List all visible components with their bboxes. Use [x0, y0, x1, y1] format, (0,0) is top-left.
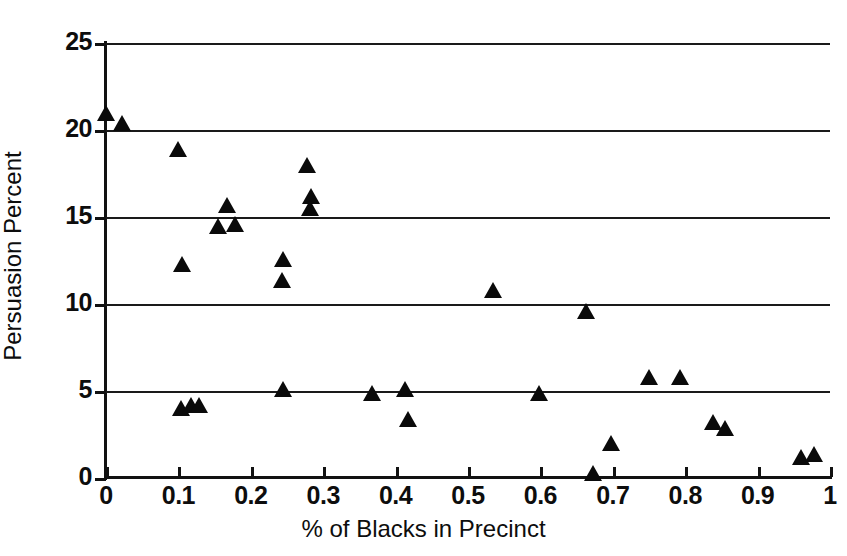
- x-tick-label: 0.2: [234, 481, 267, 510]
- x-tick-mark: [396, 467, 399, 477]
- data-point-marker: [530, 385, 548, 401]
- scatter-plot-figure: 0510152025 00.10.20.30.40.50.60.70.80.91…: [0, 0, 847, 556]
- data-point-marker: [226, 216, 244, 232]
- data-point-marker: [396, 381, 414, 397]
- x-tick-mark: [613, 467, 616, 477]
- data-point-marker: [209, 218, 227, 234]
- x-tick-mark: [178, 467, 181, 477]
- data-point-marker: [805, 446, 823, 462]
- y-tick-label: 15: [65, 201, 92, 230]
- x-axis-title: % of Blacks in Precinct: [0, 515, 847, 543]
- y-tick-mark: [95, 43, 106, 46]
- data-point-marker: [602, 435, 620, 451]
- data-point-marker: [301, 200, 319, 216]
- y-tick-label: 20: [65, 114, 92, 143]
- gridline: [106, 43, 830, 45]
- x-tick-mark: [540, 467, 543, 477]
- y-tick-label: 0: [79, 462, 92, 491]
- x-tick-label: 0.7: [596, 481, 629, 510]
- data-point-marker: [173, 256, 191, 272]
- data-point-marker: [640, 369, 658, 385]
- data-point-marker: [274, 381, 292, 397]
- x-tick-mark: [758, 467, 761, 477]
- x-tick-label: 0.4: [379, 481, 412, 510]
- x-tick-label: 0.1: [162, 481, 195, 510]
- x-tick-mark: [323, 467, 326, 477]
- data-point-marker: [363, 385, 381, 401]
- data-point-marker: [298, 157, 316, 173]
- data-point-marker: [218, 197, 236, 213]
- x-tick-label: 0.5: [451, 481, 484, 510]
- y-tick-mark: [95, 304, 106, 307]
- x-tick-label: 0.9: [741, 481, 774, 510]
- data-point-marker: [169, 141, 187, 157]
- data-point-marker: [716, 420, 734, 436]
- data-point-marker: [273, 272, 291, 288]
- data-point-marker: [399, 411, 417, 427]
- data-point-marker: [671, 369, 689, 385]
- x-tick-mark: [685, 467, 688, 477]
- x-tick-label: 1: [823, 481, 836, 510]
- data-point-marker: [484, 282, 502, 298]
- y-axis-title: Persuasion Percent: [0, 91, 27, 421]
- y-tick-mark: [95, 130, 106, 133]
- data-point-marker: [577, 303, 595, 319]
- y-tick-label: 25: [65, 27, 92, 56]
- x-tick-mark: [468, 467, 471, 477]
- y-tick-mark: [95, 217, 106, 220]
- x-tick-label: 0: [99, 481, 112, 510]
- x-tick-label: 0.8: [669, 481, 702, 510]
- gridline: [106, 304, 830, 306]
- data-point-marker: [274, 251, 292, 267]
- y-tick-label: 10: [65, 288, 92, 317]
- x-tick-mark: [830, 467, 833, 477]
- y-tick-mark: [95, 391, 106, 394]
- x-tick-label: 0.3: [307, 481, 340, 510]
- data-point-marker: [190, 397, 208, 413]
- x-tick-label: 0.6: [524, 481, 557, 510]
- data-point-marker: [584, 465, 602, 481]
- plot-area: [106, 43, 830, 478]
- data-point-marker: [113, 115, 131, 131]
- gridline: [106, 130, 830, 132]
- gridline: [106, 391, 830, 393]
- x-tick-mark: [251, 467, 254, 477]
- y-tick-label: 5: [79, 375, 92, 404]
- x-tick-mark: [106, 467, 109, 477]
